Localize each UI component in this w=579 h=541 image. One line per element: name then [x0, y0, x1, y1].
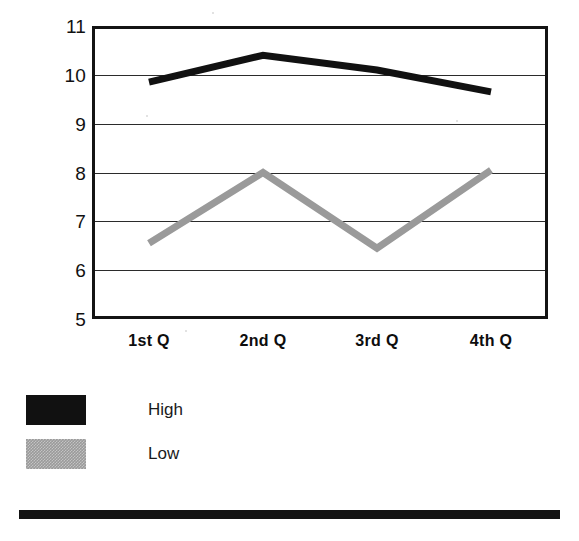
scan-speckle — [146, 115, 148, 117]
gridline-6 — [95, 270, 545, 271]
legend-item-low: Low — [26, 432, 286, 476]
gridline-10 — [95, 75, 545, 76]
y-tick-label: 6 — [75, 261, 86, 280]
y-axis: 11 10 9 8 7 6 5 — [30, 26, 86, 319]
legend-label: High — [148, 400, 183, 420]
line-chart-figure: 11 10 9 8 7 6 5 1st Q 2nd Q 3rd Q 4th Q … — [0, 0, 579, 541]
y-tick-label: 5 — [75, 310, 86, 329]
y-tick-label: 8 — [75, 163, 86, 182]
gridline-9 — [95, 124, 545, 125]
black-swatch-icon — [26, 395, 86, 425]
gray-swatch-icon — [26, 439, 86, 469]
scan-speckle — [456, 120, 458, 122]
y-tick-label: 10 — [64, 65, 86, 84]
legend-item-high: High — [26, 388, 286, 432]
x-tick-label: 4th Q — [470, 332, 512, 350]
chart-legend: High Low — [26, 388, 286, 476]
bottom-rule — [19, 510, 560, 519]
scan-speckle — [185, 330, 187, 332]
scan-speckle — [212, 12, 214, 14]
y-tick-label: 7 — [75, 212, 86, 231]
y-tick-label: 9 — [75, 114, 86, 133]
gridline-7 — [95, 221, 545, 222]
legend-label: Low — [148, 444, 179, 464]
x-tick-label: 1st Q — [128, 332, 170, 350]
gridline-8 — [95, 173, 545, 174]
x-tick-label: 3rd Q — [355, 332, 398, 350]
x-tick-label: 2nd Q — [240, 332, 287, 350]
x-axis: 1st Q 2nd Q 3rd Q 4th Q — [92, 332, 548, 358]
plot-area — [92, 26, 548, 319]
y-tick-label: 11 — [66, 17, 86, 36]
